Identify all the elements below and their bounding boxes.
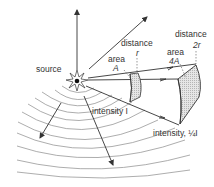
- distance-2r-label: distance: [175, 30, 207, 39]
- arrow-down-left: [40, 103, 61, 138]
- wavefront-7: [18, 120, 158, 140]
- distance-r-label: distance: [121, 39, 153, 48]
- arrowhead-mid: [160, 79, 166, 81]
- a-label: A: [113, 64, 119, 73]
- r-label: r: [136, 49, 139, 58]
- inverse-square-diagram: source distance r distance 2r area A are…: [0, 0, 214, 187]
- wavefront-8: [17, 128, 175, 148]
- intensity-i-label: intensity I: [92, 107, 128, 116]
- cone-top-edge: [88, 64, 196, 78]
- area-a-patch: [130, 73, 141, 102]
- wavefront-3: [42, 92, 112, 106]
- four-a-label: 4A: [169, 57, 179, 66]
- arrowhead-top: [167, 67, 173, 70]
- source-label: source: [36, 65, 62, 74]
- two-r-label: 2r: [193, 41, 201, 50]
- source-icon: [66, 70, 88, 91]
- wavefront-2: [55, 90, 102, 100]
- area-4a-patch: [178, 65, 200, 124]
- wavefront-11: [17, 170, 190, 178]
- intensity-quarter-label: intensity, ¼I: [153, 129, 198, 138]
- rays: [40, 10, 147, 165]
